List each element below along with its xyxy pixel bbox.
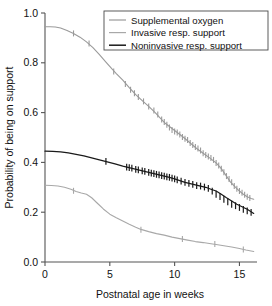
legend-label-1: Supplemental oxygen bbox=[131, 15, 223, 26]
y-tick-label: 0.6 bbox=[23, 106, 38, 118]
censor-marks bbox=[74, 188, 244, 253]
curve-line bbox=[45, 27, 254, 200]
series-noninvasive-resp-support bbox=[45, 151, 254, 216]
x-tick-label: 10 bbox=[169, 268, 181, 280]
y-tick-label: 0.2 bbox=[23, 206, 38, 218]
chart-canvas: 0.00.20.40.60.81.0051015Postnatal age in… bbox=[0, 0, 272, 306]
x-tick-label: 5 bbox=[107, 268, 113, 280]
y-tick-label: 0.0 bbox=[23, 256, 38, 268]
legend: Supplemental oxygenInvasive resp. suppor… bbox=[104, 11, 268, 51]
x-tick-label: 0 bbox=[42, 268, 48, 280]
censor-marks bbox=[106, 158, 251, 216]
x-tick-label: 15 bbox=[234, 268, 246, 280]
y-tick-label: 0.4 bbox=[23, 156, 38, 168]
y-tick-label: 0.8 bbox=[23, 56, 38, 68]
series-supplemental-oxygen bbox=[45, 27, 254, 201]
legend-label-3: Noninvasive resp. support bbox=[131, 40, 242, 51]
survival-curve-figure: 0.00.20.40.60.81.0051015Postnatal age in… bbox=[0, 0, 272, 306]
y-tick-label: 1.0 bbox=[23, 7, 38, 19]
curve-line bbox=[45, 151, 254, 213]
x-axis-title: Postnatal age in weeks bbox=[96, 288, 204, 300]
y-axis-title: Probability of being on support bbox=[3, 66, 15, 208]
legend-label-2: Invasive resp. support bbox=[131, 27, 225, 38]
